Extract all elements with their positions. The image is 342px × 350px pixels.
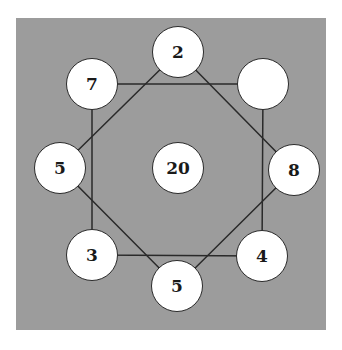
node-center: 20 xyxy=(152,142,204,194)
node-lower-left: 3 xyxy=(66,229,118,281)
node-bottom: 5 xyxy=(151,260,203,312)
node-upper-left: 7 xyxy=(66,58,118,110)
node-left: 5 xyxy=(34,142,86,194)
node-upper-right-blank xyxy=(237,58,289,110)
node-top: 2 xyxy=(152,26,204,78)
node-right: 8 xyxy=(268,144,320,196)
node-lower-right: 4 xyxy=(236,230,288,282)
